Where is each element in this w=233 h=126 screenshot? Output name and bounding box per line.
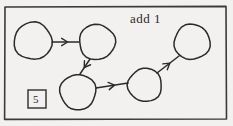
edges-group bbox=[52, 38, 179, 89]
node-bottom-left bbox=[60, 75, 96, 110]
node-top-left bbox=[14, 22, 52, 59]
diagram-svg bbox=[0, 0, 233, 126]
nodes-group bbox=[14, 22, 210, 110]
edge-n4-to-n5 bbox=[157, 56, 179, 73]
edge-n3-to-n4 bbox=[96, 82, 128, 89]
node-top-right bbox=[174, 24, 210, 59]
node-top-middle bbox=[80, 24, 116, 59]
diagram-canvas: add 1 5 bbox=[0, 0, 233, 126]
edge-n2-to-n3 bbox=[80, 59, 91, 74]
edge-n1-to-n2 bbox=[52, 38, 79, 45]
edge-n4-to-n5-line bbox=[157, 56, 179, 73]
annotation-label: add 1 bbox=[130, 11, 161, 27]
node-bottom-middle bbox=[127, 68, 161, 101]
counter-box-value: 5 bbox=[33, 92, 39, 106]
